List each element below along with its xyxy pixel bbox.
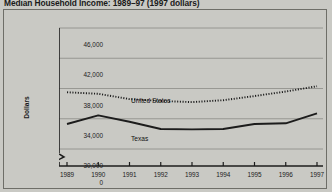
series-label: Texas [131,135,148,142]
chart-figure: Median Household Income: 1989–97 (1997 d… [0,0,332,192]
x-axis-tick-labels: 198919901991199219931994199519961997 [59,183,324,192]
plot-canvas [59,26,324,183]
axis-break-mark [59,154,64,162]
series-label: United States [131,97,171,104]
chart-title: Median Household Income: 1989–97 (1997 d… [4,0,199,8]
series-line [67,113,317,129]
chart-panel: Dollars 030,00034,00038,00042,00046,000 … [3,9,327,189]
y-axis-title: Dollars [23,96,30,118]
plot-area: Dollars 030,00034,00038,00042,00046,000 … [59,26,324,183]
